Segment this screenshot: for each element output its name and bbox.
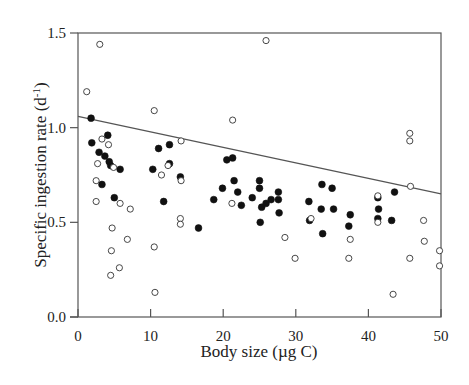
x-tick-label: 50: [434, 328, 449, 344]
open-circle-point: [407, 138, 413, 144]
open-circle-point: [407, 183, 413, 189]
open-circle-point: [158, 172, 164, 178]
filled-circle-point: [256, 177, 263, 184]
open-circle-point: [117, 200, 123, 206]
filled-circle-point: [219, 185, 226, 192]
scatter-chart: 01020304050 0.00.51.01.5 Body size (µg C…: [0, 0, 469, 385]
open-circle-point: [108, 272, 114, 278]
open-circle-point: [375, 219, 381, 225]
open-circle-point: [308, 215, 314, 221]
open-circle-point: [177, 221, 183, 227]
plot-frame: [78, 33, 441, 317]
y-axis-title-end: ): [31, 82, 50, 88]
filled-circle-point: [388, 217, 395, 224]
open-circle-point: [263, 37, 269, 43]
y-tick-label: 1.5: [47, 25, 66, 41]
filled-circle-point: [305, 198, 312, 205]
open-circle-point: [230, 117, 236, 123]
x-tick-label: 10: [143, 328, 158, 344]
filled-circle-point: [229, 155, 236, 162]
filled-circle-point: [166, 141, 173, 148]
filled-circle-point: [234, 189, 241, 196]
open-circle-point: [407, 130, 413, 136]
open-circle-point: [151, 108, 157, 114]
y-axis-title-main: Specific ingestion rate (d: [31, 97, 50, 268]
open-circle-point: [152, 289, 158, 295]
open-circle-point: [116, 265, 122, 271]
x-axis-title: Body size (µg C): [201, 342, 318, 361]
plot-border: [78, 33, 441, 317]
open-circle-point: [420, 217, 426, 223]
open-circle-point: [95, 161, 101, 167]
open-circle-point: [178, 178, 184, 184]
open-circle-point: [93, 178, 99, 184]
filled-circle-point: [276, 209, 283, 216]
filled-circle-point: [319, 181, 326, 188]
filled-circle-point: [101, 153, 108, 160]
open-circle-point: [390, 291, 396, 297]
filled-circle-point: [319, 230, 326, 237]
filled-circle-point: [99, 181, 106, 188]
filled-circle-point: [238, 202, 245, 209]
x-tick-label: 40: [361, 328, 376, 344]
y-axis-title-superscript: -1: [30, 88, 42, 97]
series-open-points: [84, 37, 443, 297]
x-axis: 01020304050: [70, 309, 449, 344]
open-circle-point: [105, 142, 111, 148]
x-tick-label: 0: [74, 328, 82, 344]
filled-circle-point: [375, 206, 382, 213]
filled-circle-point: [160, 198, 167, 205]
filled-circle-point: [256, 185, 263, 192]
open-circle-point: [99, 136, 105, 142]
filled-circle-point: [318, 206, 325, 213]
open-circle-point: [151, 244, 157, 250]
open-circle-point: [109, 225, 115, 231]
filled-circle-point: [330, 206, 337, 213]
filled-circle-point: [155, 145, 162, 152]
filled-circle-point: [275, 196, 282, 203]
open-circle-point: [375, 193, 381, 199]
filled-circle-point: [268, 196, 275, 203]
open-circle-point: [436, 263, 442, 269]
filled-circle-point: [104, 132, 111, 139]
filled-circle-point: [347, 211, 354, 218]
open-circle-point: [292, 255, 298, 261]
filled-circle-point: [117, 166, 124, 173]
open-circle-point: [127, 206, 133, 212]
filled-circle-point: [195, 225, 202, 232]
filled-circle-point: [275, 189, 282, 196]
filled-circle-point: [249, 194, 256, 201]
y-axis-title: Specific ingestion rate (d-1): [30, 82, 50, 267]
filled-circle-point: [345, 223, 352, 230]
open-circle-point: [436, 248, 442, 254]
y-tick-label: 0.0: [47, 309, 66, 325]
open-circle-point: [347, 236, 353, 242]
filled-circle-point: [329, 185, 336, 192]
open-circle-point: [229, 200, 235, 206]
series-filled-points: [88, 115, 398, 237]
open-circle-point: [165, 162, 171, 168]
open-circle-point: [407, 255, 413, 261]
open-circle-point: [421, 238, 427, 244]
filled-circle-point: [149, 166, 156, 173]
filled-circle-point: [96, 149, 103, 156]
y-tick-label: 0.5: [47, 214, 66, 230]
filled-circle-point: [391, 189, 398, 196]
y-tick-label: 1.0: [47, 120, 66, 136]
filled-circle-point: [231, 177, 238, 184]
open-circle-point: [346, 255, 352, 261]
filled-circle-point: [111, 194, 118, 201]
open-circle-point: [84, 89, 90, 95]
open-circle-point: [178, 138, 184, 144]
filled-circle-point: [88, 115, 95, 122]
filled-circle-point: [88, 139, 95, 146]
open-circle-point: [108, 248, 114, 254]
y-axis: 0.00.51.01.5: [47, 25, 78, 325]
open-circle-point: [124, 236, 130, 242]
open-circle-point: [282, 234, 288, 240]
filled-circle-point: [210, 196, 217, 203]
open-circle-point: [97, 41, 103, 47]
open-circle-point: [93, 198, 99, 204]
filled-circle-point: [257, 219, 264, 226]
open-circle-point: [110, 164, 116, 170]
